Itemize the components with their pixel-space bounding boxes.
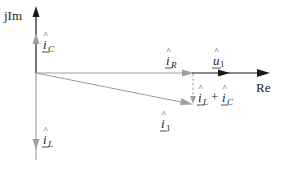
u-1-arrow-icon xyxy=(218,70,230,77)
i-l-label: i L ^ xyxy=(42,125,53,149)
i-c-label: i C ^ xyxy=(42,30,55,54)
svg-text:R: R xyxy=(170,60,177,70)
svg-text:^: ^ xyxy=(199,83,204,93)
i-c-arrow-icon xyxy=(33,33,40,44)
svg-text:^: ^ xyxy=(223,83,228,93)
i-r-label: i R ^ xyxy=(165,46,177,70)
svg-text:+: + xyxy=(211,89,218,104)
svg-text:^: ^ xyxy=(44,30,49,40)
svg-text:L: L xyxy=(47,139,53,149)
svg-text:1: 1 xyxy=(166,123,171,133)
svg-text:C: C xyxy=(48,44,55,54)
phasor-diagram: jIm Re i C ^ i L ^ i R ^ u 1 ^ i 1 ^ i L… xyxy=(0,0,281,170)
i-l-plus-i-c-arrow-icon xyxy=(190,96,196,104)
svg-text:^: ^ xyxy=(44,125,49,135)
imag-axis-label: jIm xyxy=(3,8,22,23)
svg-text:^: ^ xyxy=(162,109,167,119)
i-1-phasor xyxy=(36,73,186,103)
i-1-label: i 1 ^ xyxy=(160,109,171,133)
real-axis-arrow-icon xyxy=(257,69,270,77)
i-l-arrow-icon xyxy=(33,139,40,150)
i-1-arrow-icon xyxy=(180,98,193,105)
svg-text:L: L xyxy=(202,97,208,107)
i-l-plus-i-c-label: i L ^ + i C ^ xyxy=(197,83,234,107)
svg-text:C: C xyxy=(227,97,234,107)
u-1-label: u 1 ^ xyxy=(212,46,225,69)
svg-text:^: ^ xyxy=(167,46,172,56)
real-axis-label: Re xyxy=(256,80,271,95)
imag-axis-arrow-icon xyxy=(33,6,40,17)
svg-text:1: 1 xyxy=(220,59,225,69)
